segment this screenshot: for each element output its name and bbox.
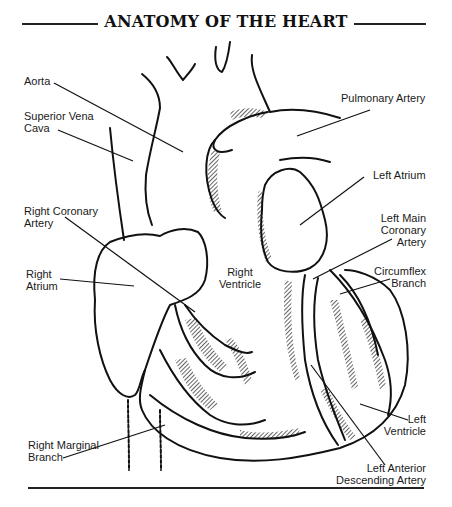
bottom-rule	[28, 487, 424, 489]
pulmonary-opening	[214, 112, 268, 152]
leader-svc	[58, 130, 133, 161]
pulmonary-outline-top	[252, 55, 340, 118]
label-right-ventricle: Right Ventricle	[212, 266, 268, 290]
circumflex-path	[330, 270, 391, 415]
leader-right-atrium	[60, 279, 134, 286]
label-left-atrium: Left Atrium	[373, 169, 426, 181]
label-right-atrium: Right Atrium	[26, 268, 58, 292]
label-left-anterior-descending-artery: Left Anterior Descending Artery	[330, 462, 426, 486]
leader-pulmonary-artery	[297, 110, 370, 136]
label-superior-vena-cava: Superior Vena Cava	[24, 110, 94, 134]
leader-right-coronary-artery	[65, 217, 195, 312]
marginal-stub-1	[128, 400, 129, 470]
label-circumflex-branch: Circumflex Branch	[360, 265, 426, 289]
label-right-coronary-artery: Right Coronary Artery	[24, 205, 98, 229]
label-left-ventricle: Left Ventricle	[370, 413, 426, 437]
brachiocephalic-stub	[167, 57, 195, 80]
svc-outline	[110, 128, 124, 240]
leader-left-atrium	[300, 177, 364, 225]
label-aorta: Aorta	[24, 75, 50, 87]
label-pulmonary-artery: Pulmonary Artery	[341, 92, 425, 104]
aorta-outline-left	[142, 74, 160, 225]
carotid-stub	[215, 42, 230, 72]
marginal-stub-2	[160, 410, 161, 470]
label-right-marginal-branch: Right Marginal Branch	[28, 439, 99, 463]
label-left-main-coronary-artery: Left Main Coronary Artery	[362, 212, 426, 248]
left-atrium-top	[280, 158, 330, 162]
